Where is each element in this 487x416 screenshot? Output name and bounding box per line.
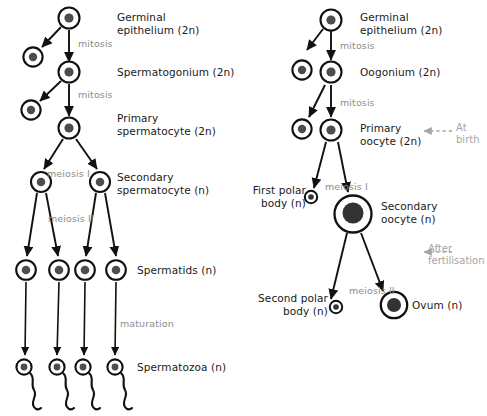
cell-spermatid-3 (75, 260, 95, 280)
cell-oogonium (321, 62, 342, 83)
cell-germinal-epithelium-male (59, 8, 80, 29)
cell-primary-oocyte (321, 120, 342, 141)
cell-spermatid-4 (106, 260, 126, 280)
cell-primary-spermatocyte (59, 118, 80, 139)
label-germinal-epithelium-male: Germinal epithelium (2n) (117, 11, 199, 37)
cell-spermatid-2 (49, 260, 69, 280)
process-label-maturation: maturation (120, 318, 174, 329)
label-secondary-oocyte: Secondary oocyte (n) (381, 200, 438, 226)
cell-oogonium-sister (292, 119, 311, 138)
cell-spermatogonium-sister (21, 100, 40, 119)
cell-secondary-oocyte (335, 196, 372, 233)
process-label-meiosis-ii-male: meiosis II (48, 213, 94, 224)
label-first-polar-body: First polar body (n) (250, 184, 306, 210)
label-oogonium: Oogonium (2n) (360, 66, 440, 79)
cell-spermatogonium (59, 62, 80, 83)
label-primary-oocyte: Primary oocyte (2n) (360, 122, 421, 148)
gametogenesis-diagram: Germinal epithelium (2n) Spermatogonium … (0, 0, 487, 416)
process-label-mitosis-male-2: mitosis (78, 89, 113, 100)
cell-secondary-spermatocyte-2 (90, 172, 110, 192)
annotation-at-birth: At birth (456, 122, 480, 146)
label-secondary-spermatocyte: Secondary spermatocyte (n) (117, 171, 209, 197)
oogenesis-cells (292, 10, 407, 319)
process-label-meiosis-ii-female: meiosis II (349, 285, 395, 296)
cell-spermatid-1 (16, 260, 36, 280)
annotation-after-fertilisation: After fertilisation (428, 243, 485, 267)
label-spermatids: Spermatids (n) (137, 264, 216, 277)
process-label-meiosis-i-male: meiosis I (47, 168, 90, 179)
cell-germinal-epithelium-female (321, 10, 342, 31)
process-label-meiosis-i-female: meiosis I (325, 181, 368, 192)
cell-spermatozoon-3 (75, 359, 100, 409)
cell-germinal-epithelium-sister-female (292, 60, 311, 79)
label-primary-spermatocyte: Primary spermatocyte (2n) (117, 112, 216, 138)
process-label-mitosis-male-1: mitosis (78, 38, 113, 49)
cell-second-polar-body (330, 301, 342, 313)
process-label-mitosis-female-1: mitosis (340, 40, 375, 51)
label-second-polar-body: Second polar body (n) (258, 292, 328, 318)
process-label-mitosis-female-2: mitosis (340, 97, 375, 108)
cell-spermatozoon-4 (107, 359, 132, 409)
cell-spermatozoon-2 (49, 359, 74, 409)
cell-germinal-epithelium-sister-male (23, 47, 42, 66)
cell-spermatozoon-1 (16, 359, 41, 409)
label-spermatozoa: Spermatozoa (n) (137, 361, 226, 374)
label-spermatogonium: Spermatogonium (2n) (117, 66, 234, 79)
label-germinal-epithelium-female: Germinal epithelium (2n) (360, 11, 442, 37)
cell-first-polar-body (305, 191, 317, 203)
annotation-arrows (424, 131, 452, 252)
label-ovum: Ovum (n) (412, 299, 462, 312)
